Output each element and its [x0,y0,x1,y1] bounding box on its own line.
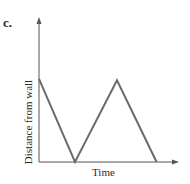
y-axis-label: Distance from wall [22,80,34,164]
x-axis-label: Time [92,166,115,178]
x-axis-arrow-icon [172,160,179,165]
y-axis-arrow-icon [37,17,42,24]
distance-line [39,79,157,162]
